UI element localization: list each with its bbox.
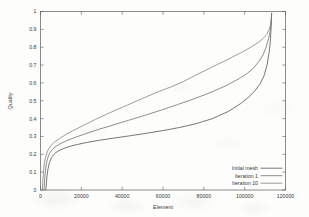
x-tick-label: 40000 bbox=[115, 193, 130, 199]
y-tick-label: 0.3 bbox=[29, 133, 36, 139]
x-tick-label: 100000 bbox=[236, 193, 253, 199]
x-axis-tick-group bbox=[41, 12, 286, 191]
y-tick-label: 0.2 bbox=[29, 151, 36, 157]
quality-vs-element-line-chart: 00.10.20.30.40.50.60.70.80.91 0200004000… bbox=[0, 0, 309, 217]
legend-label-initial-mesh: Initial mesh bbox=[232, 165, 258, 171]
y-tick-label: 0 bbox=[34, 187, 37, 193]
chart-legend: Initial mesh Iteration 1 Iteration 10 bbox=[232, 165, 282, 186]
y-tick-label: 0.1 bbox=[29, 169, 36, 175]
y-tick-label: 0.8 bbox=[29, 44, 36, 50]
series-curves bbox=[42, 13, 271, 190]
x-tick-label: 80000 bbox=[197, 193, 212, 199]
x-axis-tick-labels: 020000400006000080000100000120000 bbox=[39, 193, 294, 199]
x-tick-label: 60000 bbox=[156, 193, 171, 199]
series-line-iteration-10 bbox=[42, 13, 271, 190]
series-line-initial-mesh bbox=[46, 13, 272, 190]
chart-canvas: 00.10.20.30.40.50.60.70.80.91 0200004000… bbox=[0, 0, 309, 217]
legend-label-iteration-1: Iteration 1 bbox=[235, 173, 258, 179]
x-axis-title: Element bbox=[153, 204, 173, 210]
y-axis-tick-labels: 00.10.20.30.40.50.60.70.80.91 bbox=[29, 8, 36, 193]
y-tick-label: 1 bbox=[34, 8, 37, 14]
x-tick-label: 120000 bbox=[277, 193, 294, 199]
y-tick-label: 0.6 bbox=[29, 80, 36, 86]
plot-frame bbox=[41, 12, 286, 191]
x-tick-label: 20000 bbox=[74, 193, 89, 199]
series-line-iteration-1 bbox=[44, 13, 272, 190]
y-axis-tick-group bbox=[41, 12, 286, 191]
legend-label-iteration-10: Iteration 10 bbox=[232, 180, 258, 186]
y-tick-label: 0.5 bbox=[29, 98, 36, 104]
y-axis-title: Quality bbox=[7, 92, 13, 109]
y-tick-label: 0.4 bbox=[29, 116, 36, 122]
y-tick-label: 0.7 bbox=[29, 62, 36, 68]
x-tick-label: 0 bbox=[39, 193, 42, 199]
y-tick-label: 0.9 bbox=[29, 26, 36, 32]
